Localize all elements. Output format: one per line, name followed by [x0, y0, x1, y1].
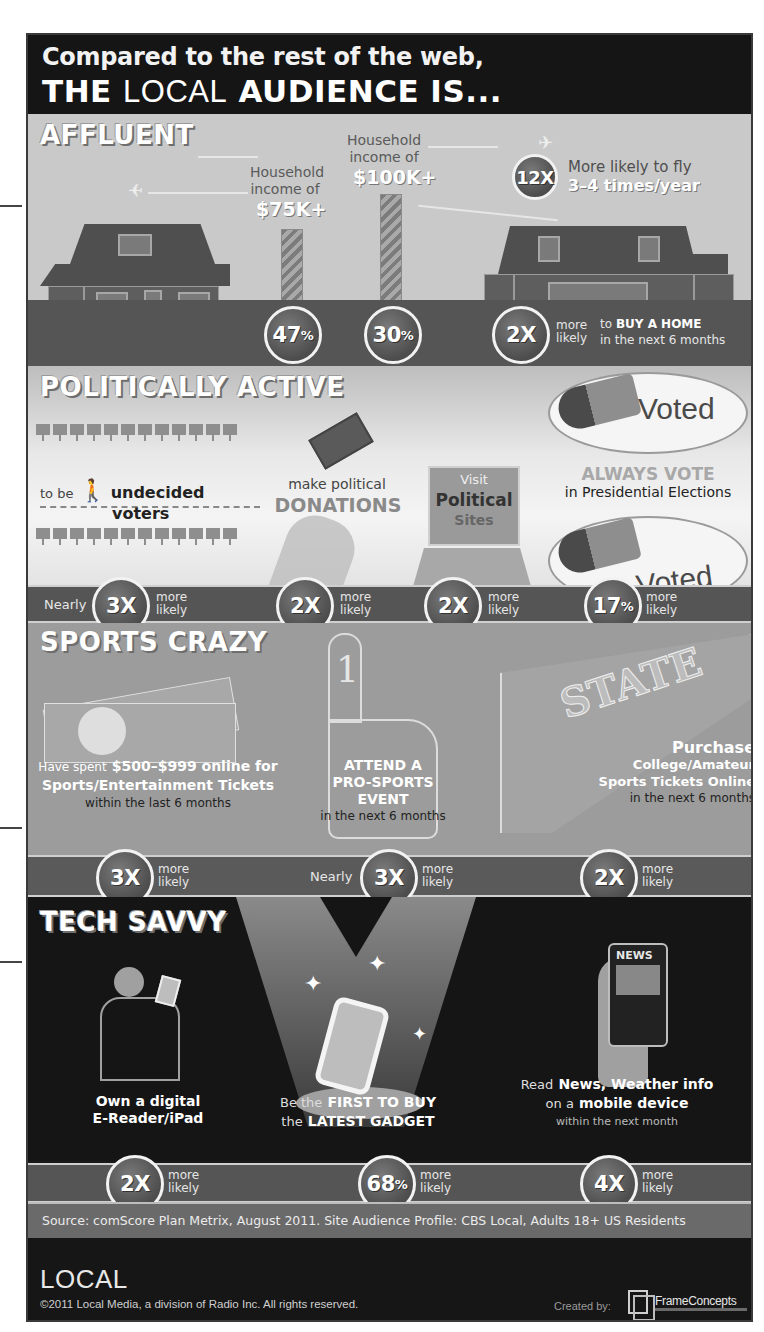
source-band: Source: comScore Plan Metrix, August 201… — [28, 1202, 751, 1238]
creator-tagline — [655, 1308, 747, 1311]
section-affluent: AFFLUENT ✈ ✈ Household income of $75K+ H… — [28, 114, 751, 366]
section-sports-crazy: SPORTS CRAZY Have spent $500–$999 online… — [28, 623, 751, 859]
more-likely-label: more likely — [556, 319, 587, 345]
income-75-value: $75K+ — [256, 198, 326, 220]
protest-signs-icon — [36, 424, 237, 435]
more-likely-label: morelikely — [488, 591, 519, 617]
footer: LOCAL ©2011 Local Media, a division of R… — [28, 1238, 751, 1322]
phone-news-label: NEWS — [616, 949, 653, 962]
section-title: AFFLUENT — [40, 120, 194, 150]
news-text: Read News, Weather info on a mobile devi… — [482, 1075, 752, 1131]
more-likely-label: morelikely — [642, 1169, 673, 1195]
source-citation: Source: comScore Plan Metrix, August 201… — [42, 1213, 686, 1228]
walking-person-icon: 🚶 — [79, 478, 106, 503]
tablet-icon — [155, 975, 182, 1007]
baseball-icon — [78, 707, 126, 755]
more-likely-label: morelikely — [422, 863, 453, 889]
news-anchor-image — [616, 965, 660, 995]
margin-tick — [0, 205, 22, 207]
sparkle-icon: ✦ — [412, 1023, 427, 1044]
sparkle-icon: ✦ — [304, 971, 322, 996]
buy-home-text: to BUY A HOME — [600, 317, 701, 331]
flight-path — [428, 146, 498, 148]
header: Compared to the rest of the web, THE LOC… — [28, 35, 751, 114]
more-likely-label: morelikely — [168, 1169, 199, 1195]
stat-badge-income-75: 47% — [264, 306, 322, 364]
airplane-icon: ✈ — [538, 132, 553, 153]
donations-text-line2: DONATIONS — [268, 494, 408, 516]
copyright: ©2011 Local Media, a division of Radio I… — [40, 1298, 358, 1310]
more-likely-label: morelikely — [340, 591, 371, 617]
stat-badge-income-100: 30% — [364, 306, 422, 364]
more-likely-label: morelikely — [156, 591, 187, 617]
buy-home-timeframe: in the next 6 months — [600, 333, 725, 347]
frameconcepts-logo-icon — [628, 1290, 648, 1314]
local-logo: LOCAL — [40, 1264, 128, 1295]
always-vote-label: ALWAYS VOTE — [548, 464, 748, 484]
more-likely-label: morelikely — [420, 1169, 451, 1195]
airplane-icon: ✈ — [128, 180, 143, 201]
protest-signs-icon — [36, 528, 237, 539]
section-title: POLITICALLY ACTIVE — [40, 372, 344, 402]
tickets-text: Have spent $500–$999 online for Sports/E… — [28, 757, 288, 812]
money-hand-icon — [308, 412, 373, 469]
fly-frequency: 3–4 times/year — [568, 176, 700, 195]
armchair-icon — [100, 997, 180, 1081]
header-subtitle: Compared to the rest of the web, — [42, 43, 484, 71]
gadget-text: Be the FIRST TO BUY the LATEST GADGET — [268, 1093, 448, 1131]
stat-badge-buy-home: 2X — [492, 306, 550, 364]
voters-label: voters — [112, 504, 169, 523]
more-likely-label: morelikely — [158, 863, 189, 889]
header-title: THE LOCAL AUDIENCE IS... — [42, 73, 502, 110]
margin-tick — [0, 827, 22, 829]
more-likely-label: morelikely — [642, 863, 673, 889]
undecided-voters-text: to be 🚶 undecided — [40, 478, 204, 503]
income-100-label: Household income of — [344, 132, 424, 166]
margin-tick — [0, 961, 22, 963]
presidential-elections-label: in Presidential Elections — [538, 484, 753, 500]
stat-badge-fly: 12X — [512, 154, 558, 200]
tickets-icon — [44, 703, 236, 763]
section-politically-active: POLITICALLY ACTIVE to be 🚶 undecided vot… — [28, 366, 751, 617]
ereader-text: Own a digital E-Reader/iPad — [58, 1093, 238, 1127]
donations-text-line1: make political — [282, 476, 392, 492]
pro-sports-text: ATTEND A PRO-SPORTS EVENT in the next 6 … — [318, 757, 448, 825]
section-tech-savvy: TECH SAVVY ✦ ✦ ✦ NEWS Own a digital E-Re… — [28, 897, 751, 1161]
person-reading-icon — [114, 967, 144, 997]
foam-finger-number: 1 — [336, 649, 359, 690]
flight-path — [148, 192, 248, 194]
creator-name: FrameConcepts — [655, 1294, 736, 1308]
college-text: Purchase College/Amateur Sports Tickets … — [599, 739, 753, 807]
flight-path — [198, 156, 258, 158]
flight-path — [418, 205, 557, 222]
section-title: TECH SAVVY — [40, 907, 227, 937]
more-likely-label: morelikely — [646, 591, 677, 617]
income-100-value: $100K+ — [353, 166, 437, 188]
section-title: SPORTS CRAZY — [40, 627, 267, 657]
nearly-label: Nearly — [310, 869, 352, 884]
infographic: Compared to the rest of the web, THE LOC… — [26, 33, 753, 1322]
income-75-label: Household income of — [250, 164, 320, 198]
created-by-label: Created by: — [554, 1300, 611, 1312]
visit-political-sites: Visit Political Sites — [428, 470, 520, 530]
voted-sticker-icon: Voted — [548, 372, 748, 454]
sparkle-icon: ✦ — [368, 951, 386, 976]
nearly-label: Nearly — [44, 597, 86, 612]
fly-label: More likely to fly — [568, 158, 692, 176]
